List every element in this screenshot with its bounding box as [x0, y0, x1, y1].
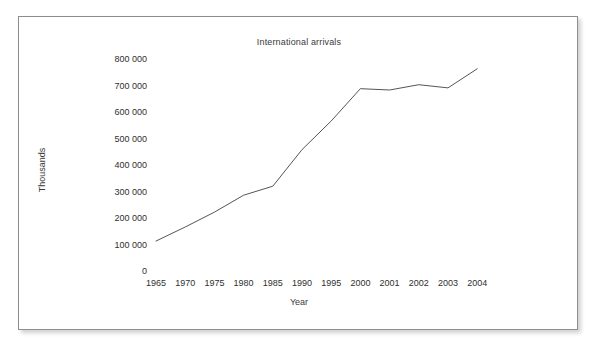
line-series-path	[156, 69, 477, 241]
chart-plot-area: International arrivals Thousands 0100 00…	[19, 17, 579, 331]
line-series-svg	[19, 17, 579, 331]
figure-frame: International arrivals Thousands 0100 00…	[18, 16, 578, 330]
page-canvas: International arrivals Thousands 0100 00…	[0, 0, 595, 346]
